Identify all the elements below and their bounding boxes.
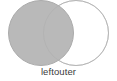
figure-caption: leftouter <box>0 66 117 77</box>
leftouter-join-venn-figure: leftouter <box>0 0 117 81</box>
left-set-circle <box>9 1 74 66</box>
